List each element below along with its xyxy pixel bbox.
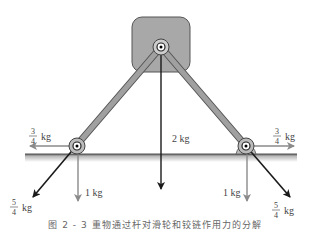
svg-text:4: 4 — [275, 137, 279, 146]
svg-text:kg: kg — [41, 131, 51, 142]
weight-label: 2 kg — [172, 133, 190, 144]
svg-text:kg: kg — [285, 131, 295, 142]
svg-text:4: 4 — [31, 137, 35, 146]
figure-caption: 图 2 - 3 重物通过杆对滑轮和铰链作用力的分解 — [0, 218, 310, 231]
right-rod — [161, 47, 246, 146]
svg-text:3: 3 — [31, 127, 35, 136]
right-horizontal-label: 3 4 kg — [273, 127, 295, 146]
left-horizontal-label: 3 4 kg — [29, 127, 51, 146]
left-diagonal-label: 5 4 kg — [10, 198, 32, 217]
svg-text:3: 3 — [275, 127, 279, 136]
svg-text:kg: kg — [284, 205, 294, 216]
svg-text:5: 5 — [274, 201, 278, 210]
svg-text:kg: kg — [22, 202, 32, 213]
svg-text:5: 5 — [12, 198, 16, 207]
left-vertical-label: 1 kg — [85, 187, 103, 198]
force-diagram: 2 kg 3 4 kg 3 4 kg 1 kg 1 kg 5 4 kg 5 4 … — [0, 0, 310, 232]
right-vertical-label: 1 kg — [223, 187, 241, 198]
top-pulley — [153, 39, 169, 55]
svg-text:4: 4 — [12, 208, 16, 217]
right-hinge — [238, 138, 254, 154]
left-pulley — [69, 138, 85, 154]
left-rod — [76, 47, 161, 146]
